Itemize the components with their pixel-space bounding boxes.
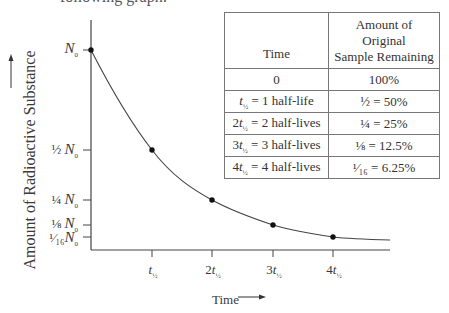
tick-subscript: 0 bbox=[75, 51, 79, 59]
header-line-1: Amount of Original bbox=[356, 17, 413, 48]
time-cell: t½ = 1 half-life bbox=[225, 91, 329, 113]
table-row: 3t½ = 3 half-lives ⅛ = 12.5% bbox=[225, 135, 440, 157]
tick-symbol: N bbox=[64, 191, 74, 207]
column-header-amount: Amount of Original Sample Remaining bbox=[329, 13, 440, 69]
tick-subscript: 0 bbox=[75, 240, 79, 248]
header-line-2: Sample Remaining bbox=[334, 49, 433, 64]
time-desc: = 4 half-lives bbox=[248, 159, 321, 174]
tick-symbol: N bbox=[64, 229, 74, 245]
tick-subscript: 0 bbox=[75, 202, 79, 210]
x-direction-arrow-icon bbox=[238, 295, 266, 300]
time-cell: 3t½ = 3 half-lives bbox=[225, 135, 329, 157]
time-desc: 0 bbox=[273, 72, 280, 87]
tick-fraction: ¹⁄₁₆ bbox=[49, 230, 64, 245]
tick-subscript: 0 bbox=[75, 152, 79, 160]
tick-subscript: ½ bbox=[152, 272, 157, 280]
half-life-table: Time Amount of Original Sample Remaining… bbox=[224, 12, 440, 179]
amount-cell: ¹⁄₁₆ = 6.25% bbox=[329, 157, 440, 179]
table-row: 4t½ = 4 half-lives ¹⁄₁₆ = 6.25% bbox=[225, 157, 440, 179]
time-cell: 0 bbox=[225, 69, 329, 91]
time-desc: = 1 half-life bbox=[248, 93, 313, 108]
x-tick-label-2: 2t½ bbox=[205, 262, 220, 280]
tick-fraction: ¼ bbox=[51, 192, 61, 207]
x-ticks bbox=[152, 250, 333, 257]
x-tick-label-3: 3t½ bbox=[266, 262, 281, 280]
amount-cell: ¼ = 25% bbox=[329, 113, 440, 135]
y-tick-label-n0: N0 bbox=[18, 40, 78, 59]
time-cell: 2t½ = 2 half-lives bbox=[225, 113, 329, 135]
y-ticks bbox=[83, 50, 91, 237]
y-direction-arrow-icon bbox=[9, 54, 14, 88]
x-tick-label-1: t½ bbox=[149, 262, 158, 280]
table-row: 2t½ = 2 half-lives ¼ = 25% bbox=[225, 113, 440, 135]
time-desc: = 3 half-lives bbox=[248, 137, 321, 152]
amount-cell: ⅛ = 12.5% bbox=[329, 135, 440, 157]
tick-symbol: N bbox=[64, 141, 74, 157]
tick-subscript: ½ bbox=[336, 272, 341, 280]
tick-subscript: ½ bbox=[215, 272, 220, 280]
table-row: t½ = 1 half-life ½ = 50% bbox=[225, 91, 440, 113]
tick-subscript: ½ bbox=[276, 272, 281, 280]
amount-cell: 100% bbox=[329, 69, 440, 91]
y-tick-label-sixteenth: ¹⁄₁₆N0 bbox=[18, 229, 78, 248]
table-header-row: Time Amount of Original Sample Remaining bbox=[225, 13, 440, 69]
time-cell: 4t½ = 4 half-lives bbox=[225, 157, 329, 179]
column-header-time: Time bbox=[225, 13, 329, 69]
x-tick-label-4: 4t½ bbox=[326, 262, 341, 280]
amount-cell: ½ = 50% bbox=[329, 91, 440, 113]
y-tick-label-quarter: ¼ N0 bbox=[18, 191, 78, 210]
table-row: 0 100% bbox=[225, 69, 440, 91]
x-axis-label: Time bbox=[212, 292, 239, 308]
tick-fraction: ½ bbox=[51, 142, 61, 157]
y-tick-label-half: ½ N0 bbox=[18, 141, 78, 160]
tick-symbol: N bbox=[64, 40, 74, 56]
time-desc: = 2 half-lives bbox=[248, 115, 321, 130]
